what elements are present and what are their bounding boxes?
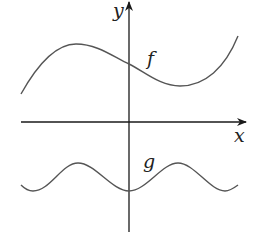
- x-axis-label: x: [234, 126, 245, 145]
- function-graph-diagram: y x f g: [0, 0, 254, 238]
- curve-g-label: g: [143, 152, 155, 171]
- graph-svg: [0, 0, 254, 238]
- curve-f-label: f: [147, 49, 154, 68]
- y-axis-label: y: [113, 1, 124, 20]
